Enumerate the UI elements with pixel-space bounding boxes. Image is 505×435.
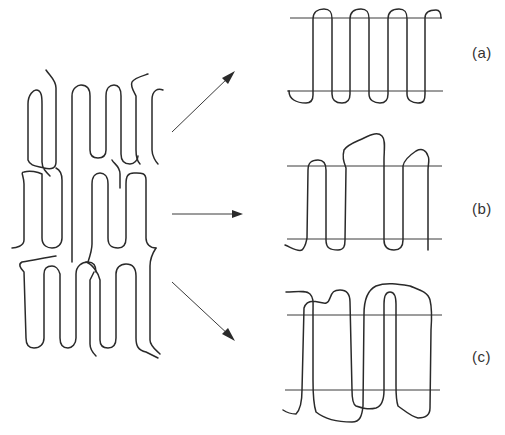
folded-chain-bot-4 [150,248,160,354]
random-reentry-chain [283,284,432,422]
folded-chain-bot-2 [86,262,158,358]
panel-c-model [283,284,442,422]
folded-chain-mid-3 [112,160,120,188]
panel-label-b: (b) [472,200,492,217]
folded-chain-top-2 [72,85,138,262]
folded-chain-top-4 [152,89,163,164]
folded-chain-top-1 [28,70,56,176]
arrow-to-a [172,71,235,132]
folded-chain-bot-1 [20,256,96,348]
folded-chain-top-3 [131,74,148,164]
lamellar-stack [12,70,163,358]
folded-chain-mid-1 [12,168,62,248]
panel-label-a: (a) [472,44,492,61]
chain-folding-diagram [0,0,505,435]
arrow-to-c [172,282,235,341]
loose-fold-chain [285,134,429,251]
folded-chain-mid-2 [88,173,156,262]
panel-b-model [285,134,442,251]
panel-label-c: (c) [472,348,491,365]
regular-fold-chain [289,9,441,103]
folded-chain-bot-3 [90,272,96,356]
panel-a-model [287,9,443,103]
arrow-to-b [172,210,243,218]
